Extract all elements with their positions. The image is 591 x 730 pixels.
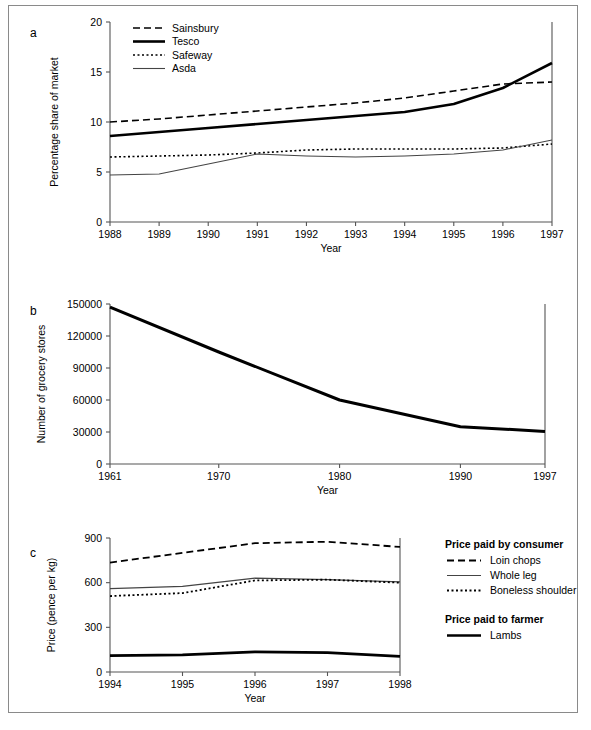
panel-a-chart: 0510152019881989199019911992199319941995… [0,0,591,270]
svg-text:30000: 30000 [73,426,102,438]
legend-label-sainsbury: Sainsbury [172,22,219,34]
svg-text:Number of grocery stores: Number of grocery stores [35,325,47,443]
legend-heading: Price paid to farmer [445,613,544,625]
legend-label-whole-leg: Whole leg [490,569,537,581]
svg-text:1989: 1989 [147,228,171,240]
svg-text:1970: 1970 [207,470,231,482]
panel-c-chart: 030060090019941995199619971998YearPrice … [0,520,591,720]
series-line [110,144,552,157]
legend-label-asda: Asda [172,62,196,74]
svg-text:1998: 1998 [388,678,412,690]
svg-text:1961: 1961 [98,470,122,482]
svg-text:60000: 60000 [73,394,102,406]
svg-text:1993: 1993 [344,228,368,240]
panel-b-chart: 0300006000090000120000150000196119701980… [0,285,591,500]
svg-text:Year: Year [244,692,266,704]
svg-text:90000: 90000 [73,362,102,374]
svg-text:1980: 1980 [328,470,352,482]
svg-text:1996: 1996 [491,228,515,240]
legend-label-lambs: Lambs [490,629,522,641]
svg-text:1990: 1990 [197,228,221,240]
legend-label-tesco: Tesco [172,35,200,47]
series-line [110,578,400,588]
svg-text:15: 15 [90,66,102,78]
svg-text:5: 5 [96,166,102,178]
legend-label-loin-chops: Loin chops [490,554,541,566]
svg-text:1995: 1995 [171,678,195,690]
legend-label-safeway: Safeway [172,49,213,61]
legend-heading: Price paid by consumer [445,538,563,550]
series-line [110,542,400,563]
svg-text:1994: 1994 [98,678,122,690]
svg-text:Year: Year [317,484,339,496]
svg-text:1991: 1991 [246,228,270,240]
svg-text:20: 20 [90,16,102,28]
series-line [110,82,552,122]
svg-text:1994: 1994 [393,228,417,240]
svg-text:1997: 1997 [533,470,557,482]
svg-text:0: 0 [96,458,102,470]
svg-text:1990: 1990 [449,470,473,482]
svg-text:150000: 150000 [67,298,102,310]
svg-text:1997: 1997 [316,678,340,690]
legend-label-boneless-shoulder: Boneless shoulder [490,584,577,596]
svg-text:1995: 1995 [442,228,466,240]
svg-text:10: 10 [90,116,102,128]
series-line [110,307,545,431]
svg-text:Year: Year [320,242,342,254]
svg-text:600: 600 [84,576,102,588]
svg-text:0: 0 [96,666,102,678]
series-line [110,140,552,175]
svg-text:900: 900 [84,532,102,544]
svg-text:1988: 1988 [98,228,122,240]
svg-text:Percentage share of market: Percentage share of market [48,57,60,187]
series-line [110,652,400,656]
svg-text:Price (pence per kg): Price (pence per kg) [45,558,57,653]
svg-text:1997: 1997 [540,228,564,240]
svg-text:300: 300 [84,621,102,633]
svg-text:1992: 1992 [295,228,319,240]
svg-text:1996: 1996 [243,678,267,690]
svg-text:0: 0 [96,216,102,228]
figure-root: a 05101520198819891990199119921993199419… [0,0,591,730]
svg-text:120000: 120000 [67,330,102,342]
